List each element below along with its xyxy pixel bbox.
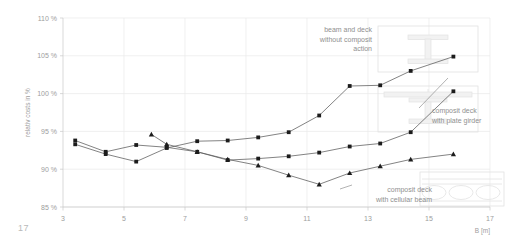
data-point-marker (409, 69, 413, 73)
annotation-line: composit deck (387, 186, 432, 194)
y-tick-labels: 85 %90 %95 %100 %105 %110 % (37, 15, 57, 211)
x-tick-label: 5 (122, 215, 126, 222)
leader-line-cellular-beam (340, 185, 352, 189)
y-axis-title: relativ costs in % (24, 88, 31, 137)
data-point-marker (317, 151, 321, 155)
cellular-beam-opening (476, 186, 500, 200)
y-tick-label: 95 % (41, 128, 57, 135)
concrete-deck-slab (384, 92, 472, 97)
data-point-marker (256, 136, 260, 140)
x-tick-label: 9 (244, 215, 248, 222)
annotation-line: composit deck (432, 107, 477, 115)
x-tick-labels: 357911131517 (61, 215, 494, 222)
annotation-composit-deck-with-cellular-beam: composit deckwith cellular beam (375, 186, 433, 203)
data-point-marker (409, 130, 413, 134)
x-axis-title: B [m] (475, 227, 490, 235)
data-point-marker (195, 139, 199, 143)
chart-canvas: 85 %90 %95 %100 %105 %110 %357911131517r… (0, 0, 506, 246)
line-chart: 85 %90 %95 %100 %105 %110 %357911131517r… (0, 0, 506, 246)
data-point-marker (348, 84, 352, 88)
icon-cellular-beam-elevation (420, 172, 504, 206)
x-tick-label: 17 (486, 215, 494, 222)
annotation-beam-and-deck-without-composit-action: beam and deckwithout compositaction (319, 26, 373, 52)
data-point-marker (378, 83, 382, 87)
data-point-marker (348, 145, 352, 149)
y-tick-label: 110 % (38, 15, 57, 22)
data-point-marker (452, 89, 456, 93)
x-tick-label: 11 (303, 215, 310, 222)
cellular-beam-opening (449, 186, 473, 200)
annotation-line: with plate girder (431, 117, 482, 125)
page-number: 17 (18, 223, 29, 233)
y-tick-label: 90 % (41, 166, 57, 173)
x-tick-label: 15 (425, 215, 433, 222)
i-beam-web (425, 39, 431, 60)
series-line (75, 91, 453, 160)
data-point-marker (287, 130, 291, 134)
series-3 (149, 132, 456, 187)
data-point-marker (73, 139, 77, 143)
data-point-marker (287, 154, 291, 158)
data-point-marker (149, 132, 154, 137)
series-2 (73, 89, 455, 162)
annotation-line: beam and deck (324, 26, 372, 33)
data-point-marker (452, 55, 456, 59)
i-beam-bottom-flange (408, 59, 448, 64)
annotation-line: action (353, 45, 372, 52)
axis-titles: relativ costs in %B [m] (24, 88, 490, 235)
x-tick-label: 7 (183, 215, 187, 222)
x-tick-label: 3 (61, 215, 65, 222)
x-tick-label: 13 (364, 215, 372, 222)
y-tick-label: 105 % (37, 52, 57, 59)
data-point-marker (134, 143, 138, 147)
annotation-line: without composit (319, 36, 372, 44)
data-point-marker (73, 142, 77, 146)
data-point-marker (256, 157, 260, 161)
data-point-marker (134, 160, 138, 164)
annotation-line: with cellular beam (375, 196, 432, 203)
series-1 (73, 55, 455, 164)
data-point-marker (451, 152, 456, 157)
data-point-marker (378, 142, 382, 146)
data-point-marker (104, 150, 108, 154)
y-tick-label: 85 % (41, 204, 57, 211)
data-point-marker (164, 142, 169, 147)
y-tick-label: 100 % (37, 90, 57, 97)
figure-root: 85 %90 %95 %100 %105 %110 %357911131517r… (0, 0, 506, 246)
annotation-composit-deck-with-plate-girder: composit deckwith plate girder (431, 107, 482, 125)
data-point-marker (317, 114, 321, 118)
data-point-marker (226, 139, 230, 143)
